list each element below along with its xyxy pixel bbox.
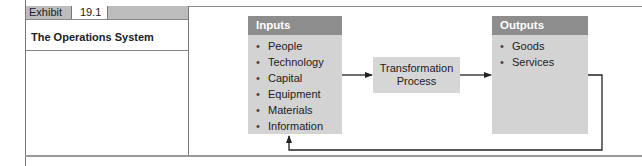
- bullet-icon: •: [256, 86, 268, 102]
- inputs-box: Inputs •People •Technology •Capital •Equ…: [248, 16, 342, 134]
- outputs-heading: Outputs: [492, 16, 588, 35]
- inputs-list: •People •Technology •Capital •Equipment …: [248, 35, 342, 134]
- list-item: •Services: [492, 54, 588, 70]
- bullet-icon: •: [256, 118, 268, 134]
- transformation-process-box: Transformation Process: [373, 57, 460, 93]
- inputs-heading: Inputs: [248, 16, 342, 35]
- list-item: •Materials: [248, 102, 342, 118]
- bullet-icon: •: [256, 70, 268, 86]
- list-item: •Equipment: [248, 86, 342, 102]
- list-item: •Technology: [248, 54, 342, 70]
- outputs-list: •Goods •Services: [492, 35, 588, 70]
- outputs-box: Outputs •Goods •Services: [492, 16, 588, 134]
- bullet-icon: •: [256, 38, 268, 54]
- bullet-icon: •: [256, 54, 268, 70]
- transformation-line-1: Transformation: [373, 62, 460, 75]
- bullet-icon: •: [500, 54, 512, 70]
- list-item: •Capital: [248, 70, 342, 86]
- bullet-icon: •: [500, 38, 512, 54]
- list-item: •Information: [248, 118, 342, 134]
- transformation-line-2: Process: [373, 75, 460, 88]
- bullet-icon: •: [256, 102, 268, 118]
- list-item: •People: [248, 38, 342, 54]
- list-item: •Goods: [492, 38, 588, 54]
